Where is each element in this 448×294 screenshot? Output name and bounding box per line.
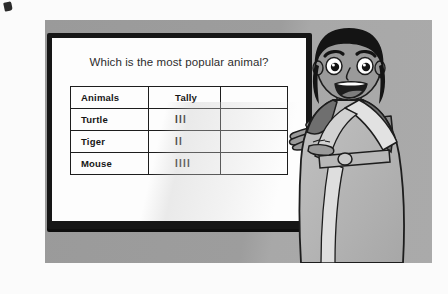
table-row: Turtle III [71, 109, 288, 131]
teacher-head [313, 28, 385, 104]
tally-marks: III [175, 114, 187, 125]
classroom-illustration: Which is the most popular animal? Animal… [0, 0, 448, 294]
cell-animal: Tiger [71, 131, 149, 153]
column-header-tally: Tally [149, 87, 221, 109]
table-row: Tiger II [71, 131, 288, 153]
cell-tally: III [149, 109, 221, 131]
tally-marks: IIII [175, 158, 191, 169]
classroom-wall: Which is the most popular animal? Animal… [45, 20, 432, 263]
page-bleed-through-artifact [37, 270, 363, 286]
teacher-figure [263, 20, 438, 263]
scan-speck-artifact [3, 1, 13, 11]
cell-animal: Mouse [71, 153, 149, 175]
cell-animal: Turtle [71, 109, 149, 131]
tally-marks: II [175, 136, 183, 147]
table-row: Mouse IIII [71, 153, 288, 175]
tally-table: Animals Tally Turtle III Tiger II [70, 86, 288, 175]
cell-tally: II [149, 131, 221, 153]
column-header-animals: Animals [71, 87, 149, 109]
sari-body [300, 100, 404, 263]
cell-tally: IIII [149, 153, 221, 175]
table-header-row: Animals Tally [71, 87, 288, 109]
